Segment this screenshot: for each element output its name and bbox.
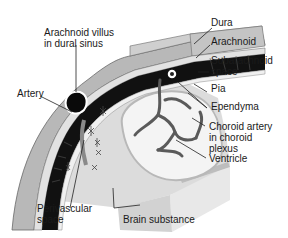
label-perivascular-space: Perivascular space	[37, 203, 92, 225]
label-artery: Artery	[17, 88, 44, 99]
label-dura: Dura	[211, 17, 233, 28]
label-arachnoid: Arachnoid	[211, 36, 256, 47]
label-arachnoid-villus: Arachnoid villus in dural sinus	[44, 27, 114, 49]
label-arachnoid-villus-line1: Arachnoid villus	[44, 27, 114, 38]
meninges-diagram: Arachnoid villus in dural sinus Artery D…	[0, 0, 288, 238]
label-pia: Pia	[211, 83, 225, 94]
label-subarachnoid-line2: space	[211, 66, 273, 77]
label-perivascular-line2: space	[37, 214, 92, 225]
label-subarachnoid-line1: Subarachnoid	[211, 55, 273, 66]
label-ependyma: Ependyma	[211, 101, 259, 112]
label-perivascular-line1: Perivascular	[37, 203, 92, 214]
label-choroid-line1: Choroid artery	[209, 121, 272, 132]
label-choroid-artery: Choroid artery in choroid plexus	[209, 121, 272, 154]
label-ventricle: Ventricle	[209, 153, 247, 164]
label-subarachnoid-space: Subarachnoid space	[211, 55, 273, 77]
label-arachnoid-villus-line2: in dural sinus	[44, 38, 114, 49]
label-brain-substance: Brain substance	[123, 214, 195, 225]
label-choroid-line2: in choroid	[209, 132, 272, 143]
